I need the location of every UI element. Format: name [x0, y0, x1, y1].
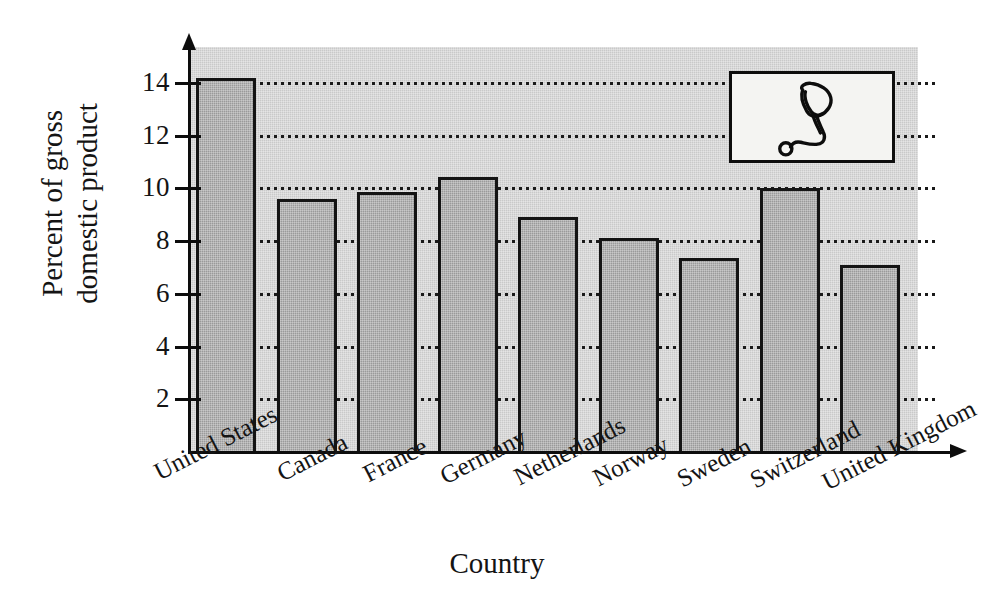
y-tick-label-12: 12	[126, 122, 170, 149]
y-tick-4	[175, 346, 201, 349]
bar-canada	[277, 199, 337, 454]
y-axis-line	[188, 48, 191, 454]
stethoscope-icon	[732, 74, 892, 160]
x-axis-arrowhead-icon	[950, 444, 967, 458]
y-tick-2	[175, 398, 201, 401]
bar-germany	[438, 177, 498, 454]
y-axis-title-line-2: domestic product	[70, 0, 105, 413]
y-axis-title-line-1: Percent of gross	[35, 0, 70, 413]
y-tick-label-14: 14	[126, 69, 170, 96]
stethoscope-earpiece-icon	[780, 143, 792, 155]
x-axis-title: Country	[0, 549, 994, 578]
bar-united-states	[196, 78, 256, 454]
bar-switzerland	[760, 188, 820, 454]
y-tick-label-6: 6	[126, 280, 170, 307]
y-tick-label-2: 2	[126, 385, 170, 412]
y-tick-label-10: 10	[126, 174, 170, 201]
y-tick-6	[175, 293, 201, 296]
y-tick-14	[175, 82, 201, 85]
y-tick-10	[175, 187, 201, 190]
y-tick-8	[175, 240, 201, 243]
gridline-10	[190, 187, 935, 190]
y-tick-12	[175, 135, 201, 138]
bar-chart-figure: 2468101214 United StatesCanadaFranceGerm…	[0, 0, 994, 606]
inset-illustration-box	[729, 71, 895, 163]
y-tick-label-8: 8	[126, 227, 170, 254]
y-tick-label-4: 4	[126, 333, 170, 360]
bar-netherlands	[518, 217, 578, 454]
bar-sweden	[679, 258, 739, 454]
y-axis-arrowhead-icon	[182, 33, 196, 50]
bar-france	[357, 192, 417, 454]
y-axis-title: Percent of gross domestic product	[35, 0, 106, 413]
